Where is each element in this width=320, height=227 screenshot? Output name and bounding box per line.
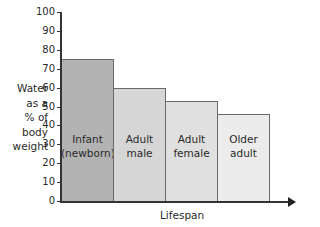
y-tick-label: 70 [33, 64, 55, 74]
y-tick-label: 10 [33, 177, 55, 187]
bar-category-label: Adultmale [113, 132, 166, 160]
x-axis-label: Lifespan [160, 209, 204, 221]
bar-category-label-line: Adult [113, 132, 166, 146]
y-tick-label: 20 [33, 158, 55, 168]
y-tick-label: 80 [33, 45, 55, 55]
y-tick-label: 100 [33, 7, 55, 17]
y-tick-label: 50 [33, 102, 55, 112]
x-axis-arrow-icon [288, 197, 296, 207]
y-tick-label: 0 [33, 196, 55, 206]
bar-category-label-line: adult [217, 146, 270, 160]
y-tick-label: 40 [33, 120, 55, 130]
y-tick-label: 30 [33, 139, 55, 149]
bar-category-label-line: male [113, 146, 166, 160]
bar-category-label-line: Infant [61, 132, 114, 146]
bar-category-label: Infant(newborn) [61, 132, 114, 160]
bar-category-label: Olderadult [217, 132, 270, 160]
y-tick-label: 60 [33, 83, 55, 93]
y-tick-label: 90 [33, 26, 55, 36]
bar-category-label-line: Adult [165, 132, 218, 146]
bar [61, 59, 114, 201]
bar-category-label-line: Older [217, 132, 270, 146]
bar-category-label-line: female [165, 146, 218, 160]
bar-category-label: Adultfemale [165, 132, 218, 160]
bar-category-label-line: (newborn) [61, 146, 114, 160]
y-axis-line [60, 12, 62, 202]
x-axis-line [60, 201, 290, 203]
